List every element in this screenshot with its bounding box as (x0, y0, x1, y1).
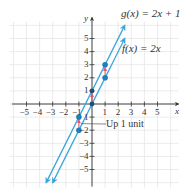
y-axis-label: y (84, 14, 88, 23)
f-equation-label: f(x) = 2x (122, 43, 161, 54)
y-tick-label: −4 (79, 152, 89, 161)
x-tick-label: 4 (142, 108, 147, 117)
x-tick-label: 2 (116, 108, 121, 117)
x-tick-label: −3 (46, 108, 56, 117)
y-tick-label: 5 (84, 34, 89, 43)
x-tick-label: 5 (155, 108, 160, 117)
coordinate-plane (0, 0, 193, 195)
y-tick-label: −2 (79, 126, 89, 135)
y-tick-label: −5 (79, 165, 89, 174)
x-tick-label: −4 (33, 108, 43, 117)
y-tick-label: 3 (84, 60, 89, 69)
x-tick-label: 3 (129, 108, 134, 117)
y-tick-label: 2 (84, 73, 89, 82)
y-tick-label: −3 (79, 139, 89, 148)
x-tick-label: −1 (72, 108, 82, 117)
y-tick-label: 4 (84, 47, 89, 56)
x-tick-label: −2 (59, 108, 69, 117)
up-one-unit-label: Up 1 unit (106, 119, 144, 129)
y-tick-label: 1 (84, 113, 89, 122)
g-point (102, 62, 108, 68)
x-axis-label: x (175, 107, 179, 116)
f-point (90, 102, 95, 107)
g-equation-label: g(x) = 2x + 1 (121, 8, 180, 19)
x-tick-label: 1 (103, 108, 108, 117)
f-point (102, 75, 108, 81)
x-tick-label: −5 (20, 108, 30, 117)
g-point (90, 89, 95, 94)
y-tick-label: 1 (84, 86, 89, 95)
